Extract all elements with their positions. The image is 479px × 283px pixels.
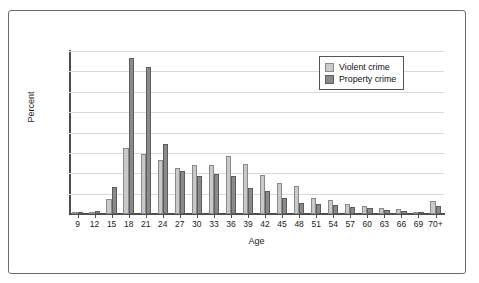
legend-label-violent-crime: Violent crime [339,62,390,72]
bar-property-48 [299,203,304,214]
bar-group [120,51,137,214]
x-tick-label-69: 69 [410,219,427,229]
x-tick-label-63: 63 [376,219,393,229]
bar-property-45 [282,198,287,214]
legend-item-property-crime: Property crime [325,73,396,85]
legend-label-property-crime: Property crime [339,74,396,84]
bar-group [410,51,427,214]
x-tick-label-60: 60 [359,219,376,229]
bar-group [239,51,256,214]
bar-group [291,51,308,214]
bar-property-27 [180,171,185,214]
bar-property-30 [197,176,202,214]
bar-group [274,51,291,214]
x-tick-label-30: 30 [188,219,205,229]
y-axis-title: Percent [26,91,36,122]
x-tick-label-27: 27 [171,219,188,229]
x-tick-label-18: 18 [120,219,137,229]
x-tick-label-15: 15 [103,219,120,229]
bar-property-39 [248,188,253,214]
bar-group [69,51,86,214]
x-tick-label-12: 12 [86,219,103,229]
x-tick-label-66: 66 [393,219,410,229]
x-tick-label-33: 33 [205,219,222,229]
x-axis-tick-labels: 9121518212427303336394245485154576063666… [69,219,444,229]
bar-property-42 [265,191,270,214]
x-tick-label-57: 57 [342,219,359,229]
bar-property-15 [112,187,117,214]
bar-property-36 [231,176,236,214]
bar-property-54 [333,205,338,214]
legend-item-violent-crime: Violent crime [325,61,396,73]
bar-property-24 [163,144,168,214]
bar-group [188,51,205,214]
x-tick-label-24: 24 [154,219,171,229]
bar-property-33 [214,174,219,214]
bar-property-70+ [436,206,441,214]
x-tick-label-54: 54 [325,219,342,229]
bar-group [427,51,444,214]
x-tick-label-45: 45 [274,219,291,229]
legend-swatch-property-crime [325,75,334,84]
bar-property-21 [146,67,151,214]
bar-group [86,51,103,214]
chart-screenshot: 9121518212427303336394245485154576063666… [0,0,479,283]
bar-property-18 [129,58,134,214]
bar-group [171,51,188,214]
bar-group [222,51,239,214]
x-axis-title: Age [69,236,444,246]
chart-legend: Violent crime Property crime [319,56,404,90]
legend-swatch-violent-crime [325,63,334,72]
x-tick-label-9: 9 [69,219,86,229]
bar-group [103,51,120,214]
chart-frame: 9121518212427303336394245485154576063666… [8,10,466,274]
bar-property-51 [316,204,321,214]
x-tick-label-51: 51 [308,219,325,229]
x-tick-label-36: 36 [222,219,239,229]
x-tick-label-42: 42 [257,219,274,229]
x-tick-label-70+: 70+ [427,219,444,229]
x-tick-label-39: 39 [239,219,256,229]
bar-group [154,51,171,214]
bar-group [137,51,154,214]
x-tick-label-48: 48 [291,219,308,229]
bar-group [257,51,274,214]
bar-group [205,51,222,214]
x-tick-label-21: 21 [137,219,154,229]
bar-property-57 [350,207,355,214]
